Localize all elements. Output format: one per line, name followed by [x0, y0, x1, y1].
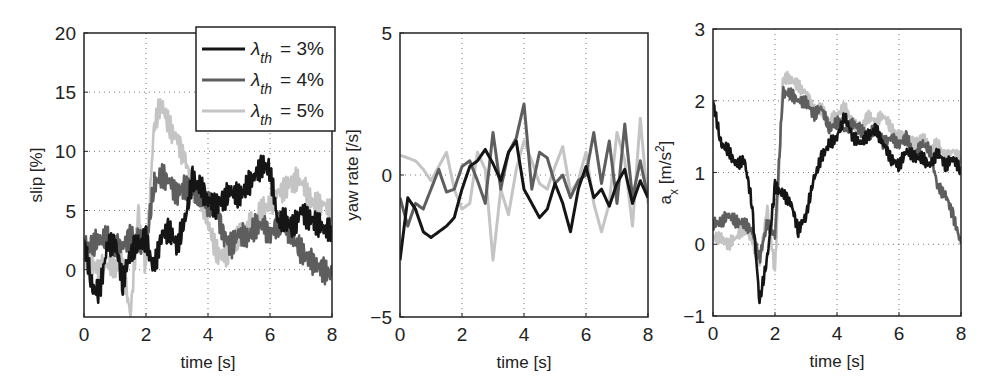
x-tick-label: 4 — [519, 324, 530, 345]
y-tick-label: 2 — [694, 91, 705, 112]
series-line-5pct — [713, 72, 961, 270]
x-tick-label: 0 — [79, 324, 90, 345]
y-tick-label: 5 — [65, 201, 76, 222]
plots: 0246805101520time [s]slip [%]02468−505ti… — [27, 19, 966, 372]
y-axis-label: yaw rate [/s] — [343, 129, 362, 221]
y-tick-label: 20 — [55, 23, 76, 44]
x-tick-label: 8 — [327, 324, 338, 345]
y-tick-label: 0 — [381, 165, 392, 186]
series-line-4pct — [400, 104, 648, 226]
y-tick-label: 1 — [694, 163, 705, 184]
x-axis-label: time [s] — [181, 353, 236, 372]
x-tick-label: 4 — [203, 324, 214, 345]
x-axis-label: time [s] — [497, 353, 552, 372]
y-tick-label: −1 — [683, 306, 705, 327]
y-tick-label: 10 — [55, 141, 76, 162]
y-tick-label: −5 — [370, 307, 392, 328]
x-axis-label: time [s] — [810, 352, 865, 371]
y-tick-label: 0 — [65, 260, 76, 281]
x-tick-label: 6 — [581, 324, 592, 345]
y-axis-label: ax [m/s2] — [653, 141, 681, 205]
y-tick-label: 15 — [55, 82, 76, 103]
x-tick-label: 6 — [265, 324, 276, 345]
x-tick-label: 0 — [395, 324, 406, 345]
y-tick-label: 3 — [694, 19, 705, 40]
subplot-2: 02468−505time [s]yaw rate [/s] — [343, 23, 653, 372]
y-tick-label: 5 — [381, 23, 392, 44]
series-line-3pct — [713, 101, 961, 303]
x-tick-label: 8 — [643, 324, 654, 345]
y-tick-label: 0 — [694, 234, 705, 255]
x-tick-label: 2 — [770, 323, 781, 344]
legend: λth= 3%λth= 4%λth= 5% — [196, 27, 335, 131]
x-tick-label: 0 — [708, 323, 719, 344]
x-tick-label: 2 — [457, 324, 468, 345]
x-tick-label: 6 — [894, 323, 905, 344]
series-group — [713, 72, 961, 303]
y-axis-label: slip [%] — [27, 148, 46, 203]
figure: 0246805101520time [s]slip [%]02468−505ti… — [0, 0, 996, 391]
series-group — [400, 104, 648, 260]
x-tick-label: 2 — [141, 324, 152, 345]
subplot-3: 02468−10123time [s]ax [m/s2] — [653, 19, 966, 371]
series-group — [84, 99, 332, 316]
x-tick-label: 8 — [956, 323, 967, 344]
x-tick-label: 4 — [832, 323, 843, 344]
